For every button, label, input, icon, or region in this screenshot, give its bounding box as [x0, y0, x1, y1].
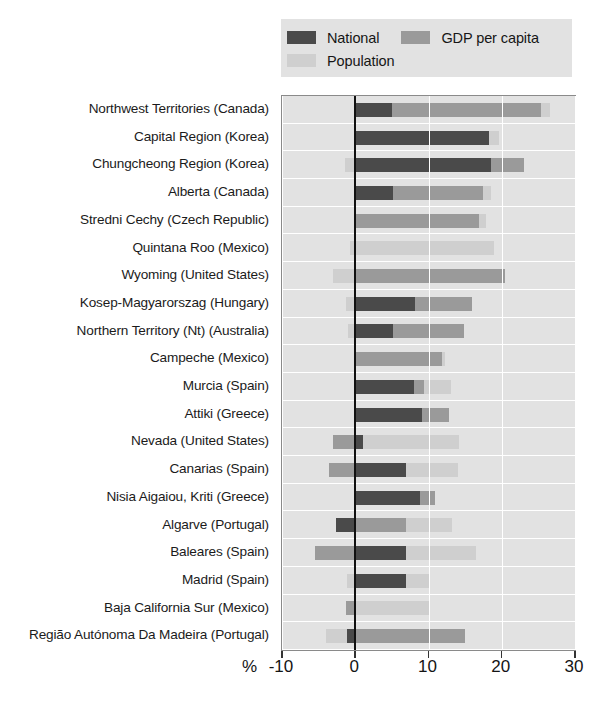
bar-segment — [336, 518, 355, 532]
bar-segment — [363, 435, 459, 449]
bar-segment — [355, 158, 491, 172]
bar-segment — [355, 103, 392, 117]
bar-segment — [541, 103, 550, 117]
bar-segment — [329, 463, 355, 477]
x-axis-tick-label: 20 — [491, 657, 510, 677]
legend-row-1: National GDP per capita — [287, 26, 572, 49]
bar-segment — [415, 297, 472, 311]
bar-segment — [333, 435, 356, 449]
y-axis-label: Algarve (Portugal) — [162, 511, 269, 539]
bar-segment — [355, 435, 362, 449]
bar-segment — [406, 546, 476, 560]
bar-segment — [355, 601, 429, 615]
y-axis-label: Canarias (Spain) — [169, 455, 269, 483]
bar-segment — [491, 158, 523, 172]
bar-segment — [420, 491, 435, 505]
legend-item-national: National — [287, 30, 379, 46]
bar-segment — [392, 103, 541, 117]
bar-segment — [355, 186, 392, 200]
y-axis-label: Stredni Cechy (Czech Republic) — [80, 206, 269, 234]
y-axis-label: Capital Region (Korea) — [134, 123, 269, 151]
bar-segment — [315, 546, 355, 560]
legend-label-national: National — [327, 30, 379, 46]
y-axis-label: Northern Territory (Nt) (Australia) — [77, 317, 269, 345]
bar-segment — [355, 380, 414, 394]
bar-segment — [422, 408, 449, 422]
bar-segment — [355, 546, 406, 560]
y-axis-label: Alberta (Canada) — [168, 178, 269, 206]
bar-segment — [406, 574, 430, 588]
legend-swatch-gdp-per-capita — [401, 31, 430, 44]
y-axis-label: Campeche (Mexico) — [150, 344, 269, 372]
legend-label-gdp-per-capita: GDP per capita — [441, 30, 538, 46]
y-axis-label: Baleares (Spain) — [170, 538, 269, 566]
gridline — [429, 96, 430, 650]
legend-swatch-population — [287, 54, 316, 67]
zero-axis-line — [354, 96, 356, 650]
y-axis-label: Wyoming (United States) — [121, 261, 269, 289]
bar-segment — [406, 463, 458, 477]
bar-segment — [326, 629, 347, 643]
bar-segment — [355, 214, 479, 228]
y-axis-label: Northwest Territories (Canada) — [89, 95, 269, 123]
bar-segment — [355, 408, 422, 422]
legend-label-population: Population — [327, 53, 395, 69]
bar-segment — [355, 269, 505, 283]
bar-segment — [355, 297, 415, 311]
x-axis-tick-label: 10 — [418, 657, 437, 677]
y-axis-label: Baja California Sur (Mexico) — [104, 594, 269, 622]
bar-segment — [479, 214, 486, 228]
bar-segment — [483, 186, 492, 200]
y-axis-label: Nisia Aigaiou, Kriti (Greece) — [106, 483, 269, 511]
y-axis-labels: Northwest Territories (Canada)Capital Re… — [0, 95, 275, 651]
bar-segment — [355, 131, 488, 145]
chart-plot-area — [281, 95, 576, 651]
x-axis-tick-label: -10 — [269, 657, 294, 677]
bar-segment — [355, 574, 406, 588]
y-axis-label: Região Autónoma Da Madeira (Portugal) — [29, 621, 269, 649]
bar-segment — [355, 629, 465, 643]
bar-segment — [355, 518, 406, 532]
y-axis-label: Murcia (Spain) — [183, 372, 269, 400]
x-axis-tick-labels: -100102030 — [281, 657, 576, 683]
bar-segment — [489, 131, 499, 145]
y-axis-label: Attiki (Greece) — [184, 400, 269, 428]
x-axis-unit-label: % — [242, 657, 257, 677]
y-axis-label: Nevada (United States) — [131, 427, 269, 455]
y-axis-label: Chungcheong Region (Korea) — [92, 150, 269, 178]
x-axis-tick-label: 0 — [350, 657, 359, 677]
x-axis-tick-label: 30 — [565, 657, 584, 677]
bar-segment — [355, 324, 392, 338]
bar-segment — [355, 463, 406, 477]
y-axis-label: Kosep-Magyarorszag (Hungary) — [80, 289, 269, 317]
legend-item-gdp-per-capita: GDP per capita — [401, 30, 538, 46]
bar-segment — [442, 352, 445, 366]
bar-segment — [414, 380, 424, 394]
gridline — [502, 96, 503, 650]
y-axis-label: Madrid (Spain) — [182, 566, 269, 594]
chart-legend: National GDP per capita Population — [281, 19, 572, 77]
legend-swatch-national — [287, 31, 316, 44]
gridline — [282, 96, 283, 650]
legend-item-population: Population — [287, 53, 395, 69]
bar-segment — [333, 269, 356, 283]
bar-segment — [393, 186, 483, 200]
gridline — [575, 96, 576, 650]
y-axis-label: Quintana Roo (Mexico) — [132, 234, 269, 262]
bar-segment — [355, 491, 419, 505]
bar-segment — [350, 241, 494, 255]
legend-row-2: Population — [287, 49, 572, 72]
